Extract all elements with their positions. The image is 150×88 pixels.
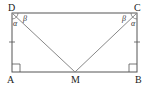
angle-label-c-alpha: α	[131, 19, 136, 28]
angle-arc-d-beta	[16, 13, 18, 17]
right-angle-mark-a	[12, 64, 20, 72]
angle-label-c-beta: β	[121, 14, 126, 23]
right-angle-mark-b	[129, 64, 137, 72]
rectangle-abcd	[12, 13, 137, 72]
angle-arc-c-beta	[131, 13, 133, 17]
segment-dm	[12, 13, 75, 72]
angle-label-d-alpha: α	[13, 19, 18, 28]
vertex-label-b: B	[135, 74, 142, 85]
vertex-label-d: D	[8, 2, 15, 13]
vertex-label-m: M	[71, 74, 80, 85]
vertex-label-a: A	[7, 74, 15, 85]
vertex-label-c: C	[134, 2, 141, 13]
rectangle-diagram: α β α β D C A B M	[0, 0, 150, 88]
angle-label-d-beta: β	[22, 14, 27, 23]
segment-cm	[75, 13, 137, 72]
